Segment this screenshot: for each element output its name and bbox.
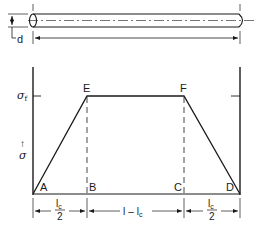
svg-text:lc: lc (56, 198, 62, 210)
svg-text:l–lc: l–lc (123, 206, 143, 218)
dimension-middle: l–lc (89, 206, 182, 218)
diameter-label: d (17, 33, 23, 45)
point-b-label: B (89, 181, 96, 193)
dimension-right: lc 2 (186, 198, 238, 222)
point-f-label: F (180, 82, 187, 94)
svg-text:2: 2 (209, 211, 215, 222)
sigma-f-label: σf (17, 89, 29, 103)
sigma-arrow-icon: ↑ (20, 138, 25, 149)
dimension-left: lc 2 (35, 198, 85, 222)
sigma-axis-label: σ (19, 149, 27, 162)
fiber-stress-diagram: d E F A B C D σf ↑ σ lc 2 l (0, 0, 260, 232)
point-c-label: C (174, 181, 182, 193)
point-d-label: D (226, 181, 234, 193)
svg-text:lc: lc (208, 198, 214, 210)
point-e-label: E (83, 82, 90, 94)
point-a-label: A (40, 181, 48, 193)
stress-profile (33, 96, 240, 194)
svg-text:2: 2 (57, 211, 63, 222)
graph-axes (33, 67, 240, 195)
